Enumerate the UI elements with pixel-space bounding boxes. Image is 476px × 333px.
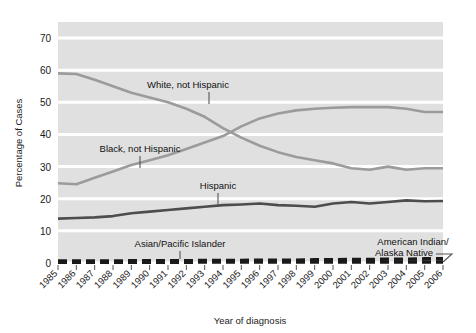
series-annotation-label: Alaska Native	[375, 247, 433, 258]
y-tick-label: 20	[40, 194, 52, 205]
x-axis-title: Year of diagnosis	[214, 315, 287, 326]
y-tick-label: 40	[40, 129, 52, 140]
y-tick-label: 10	[40, 226, 52, 237]
y-axis-title: Percentage of Cases	[13, 98, 24, 187]
series-annotation-label: Black, not Hispanic	[100, 143, 181, 154]
y-tick-label: 60	[40, 65, 52, 76]
series-annotation-label: Hispanic	[200, 180, 237, 191]
y-tick-label: 50	[40, 97, 52, 108]
series-annotation-label: American Indian/	[377, 236, 449, 247]
chart-svg: 010203040506070 198519861987198819891990…	[0, 0, 476, 333]
chart-figure: 010203040506070 198519861987198819891990…	[0, 0, 476, 333]
y-tick-label: 30	[40, 162, 52, 173]
series-annotation-label: White, not Hispanic	[147, 79, 229, 90]
series-annotation-label: Asian/Pacific Islander	[135, 238, 226, 249]
y-tick-label: 70	[40, 33, 52, 44]
